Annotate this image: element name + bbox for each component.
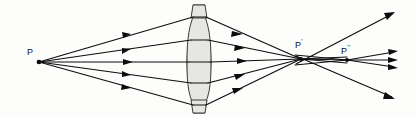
image-point-P2-dot: [345, 58, 349, 62]
emergent-ray-axial-arrowhead: [388, 57, 398, 63]
image-point-P1-dot: [299, 57, 303, 61]
emergent-ray-up-shallow-arrowhead: [388, 49, 398, 55]
emergent-ray-up-shallow: [347, 52, 394, 60]
refracted-ray-bundle: [206, 17, 301, 105]
converging-lens: [187, 5, 211, 113]
incident-ray-1: [39, 17, 193, 62]
refracted-ray-1: [206, 17, 301, 59]
label-P1-prime: ': [301, 38, 303, 45]
lens-bottom-neck: [191, 100, 207, 113]
refracted-ray-5: [206, 59, 301, 105]
emergent-ray-down-shallow-arrowhead: [388, 64, 398, 70]
label-object-point-P: P: [27, 45, 33, 57]
refracted-ray-5-arrowhead: [232, 88, 243, 94]
refracted-ray-2: [208, 40, 301, 59]
object-point-P-dot: [37, 60, 42, 64]
emergent-ray-down-shallow: [347, 60, 394, 67]
refracted-ray-3-arrowhead: [237, 58, 247, 64]
ray-diagram-canvas: [0, 0, 417, 117]
emergent-ray-up-steep-arrowhead: [384, 12, 395, 20]
lens-top-neck: [191, 5, 207, 18]
optics-ray-diagram: P P' P'': [0, 0, 417, 117]
incident-ray-3-arrowhead: [123, 59, 133, 65]
refracted-ray-1-arrowhead: [231, 31, 243, 37]
incident-ray-5: [39, 62, 193, 105]
incident-ray-2: [39, 40, 191, 62]
incident-ray-2-arrowhead: [122, 48, 131, 54]
label-image-point-P-double-prime: P'': [341, 44, 351, 56]
incident-ray-4: [39, 62, 191, 83]
incident-ray-bundle: [39, 17, 193, 105]
lens-outline: [187, 5, 211, 113]
refracted-ray-4: [208, 59, 301, 83]
emergent-ray-down-steep: [296, 56, 392, 97]
refracted-ray-4-arrowhead: [234, 74, 245, 80]
emergent-ray-down-steep-arrowhead: [383, 92, 395, 99]
refracted-ray-3-axial: [210, 59, 301, 62]
label-P-text: P: [27, 47, 33, 57]
label-P2-prime: '': [347, 44, 351, 51]
label-image-point-P-prime: P': [295, 38, 303, 50]
emergent-ray-up-steep: [296, 14, 392, 64]
